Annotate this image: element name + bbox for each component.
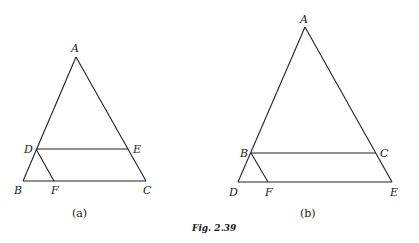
figure-caption: Fig. 2.39	[191, 223, 237, 233]
point-label-b: B	[13, 184, 22, 197]
segment-ab	[23, 57, 76, 181]
panel-b: A B C D F E (b)	[228, 13, 398, 220]
point-label-a: A	[299, 13, 308, 26]
point-label-c: C	[380, 147, 389, 160]
panel-sublabel-b: (b)	[300, 207, 316, 220]
segment-df	[36, 149, 54, 181]
point-label-f: F	[50, 184, 59, 197]
segment-ae	[305, 27, 392, 182]
point-label-d: D	[23, 143, 33, 156]
point-label-a: A	[70, 42, 79, 55]
point-label-f: F	[264, 186, 273, 199]
point-label-b: B	[239, 147, 248, 160]
segment-ac	[76, 57, 146, 181]
point-label-e: E	[389, 186, 398, 199]
point-label-c: C	[143, 184, 152, 197]
segment-bf	[251, 153, 268, 182]
panel-a: A D E B F C (a)	[13, 42, 152, 220]
figure-canvas: A D E B F C (a) A B C D F E (b) Fig. 2.3…	[0, 0, 419, 243]
panel-sublabel-a: (a)	[72, 207, 87, 220]
point-label-d: D	[228, 186, 238, 199]
point-label-e: E	[132, 143, 141, 156]
